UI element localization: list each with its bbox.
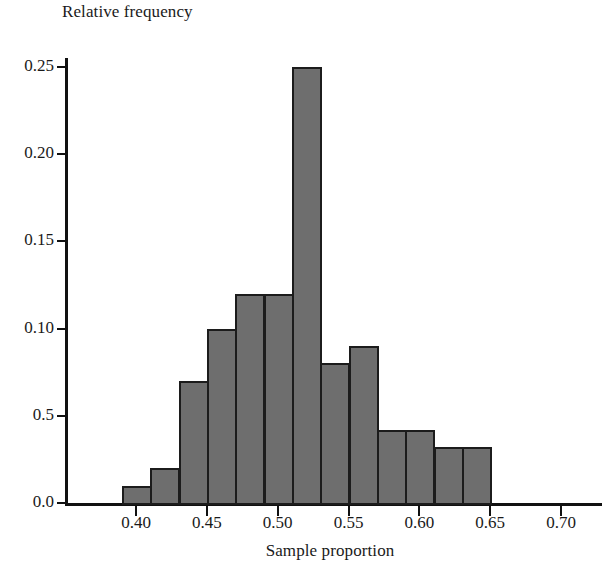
histogram-bar: [235, 294, 265, 505]
y-axis-line: [65, 58, 68, 506]
histogram-chart: Relative frequency 0.00.50.100.150.200.2…: [0, 0, 614, 575]
histogram-bar: [377, 430, 407, 505]
histogram-bar: [207, 329, 237, 505]
histogram-bar: [122, 486, 152, 505]
y-tick-label: 0.15: [2, 230, 54, 250]
histogram-bar: [179, 381, 209, 505]
histogram-bar: [405, 430, 435, 505]
histogram-bar: [434, 447, 464, 505]
y-tick-label: 0.25: [2, 56, 54, 76]
y-tick-mark: [57, 153, 66, 155]
x-axis-title: Sample proportion: [0, 541, 614, 561]
y-tick-mark: [57, 66, 66, 68]
y-tick-mark: [57, 415, 66, 417]
histogram-bar: [349, 346, 379, 505]
y-tick-label: 0.10: [2, 318, 54, 338]
histogram-bar: [264, 294, 294, 505]
histogram-bar: [462, 447, 492, 505]
x-tick-label: 0.40: [106, 513, 166, 533]
x-tick-label: 0.55: [319, 513, 379, 533]
histogram-bar: [292, 67, 322, 505]
x-tick-label: 0.60: [389, 513, 449, 533]
x-tick-label: 0.65: [460, 513, 520, 533]
y-tick-mark: [57, 328, 66, 330]
x-tick-label: 0.70: [531, 513, 591, 533]
y-tick-mark: [57, 502, 66, 504]
y-tick-label: 0.20: [2, 143, 54, 163]
y-tick-label: 0.0: [2, 492, 54, 512]
y-tick-label: 0.5: [2, 405, 54, 425]
x-tick-label: 0.45: [177, 513, 237, 533]
x-tick-label: 0.50: [248, 513, 308, 533]
histogram-bar: [320, 363, 350, 505]
histogram-bar: [150, 468, 180, 505]
plot-area: 0.00.50.100.150.200.25 0.400.450.500.550…: [0, 0, 614, 575]
y-tick-mark: [57, 240, 66, 242]
